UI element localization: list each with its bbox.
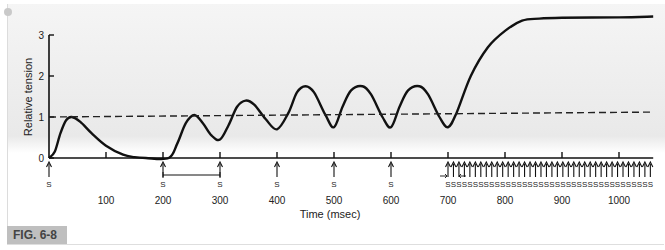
- stimulus-label: S: [217, 180, 222, 189]
- x-ticks: 1002003004005006007008009001000: [98, 152, 631, 206]
- interval-arrow-right: [440, 174, 447, 178]
- x-tick-label: 400: [269, 195, 286, 206]
- x-tick-label: 1000: [608, 195, 631, 206]
- y-ticks: 0123: [38, 30, 54, 164]
- x-tick-label: 200: [155, 195, 172, 206]
- y-tick-label: 3: [38, 30, 44, 41]
- y-tick-label: 1: [38, 112, 44, 123]
- stimulus-marker: S: [331, 162, 336, 189]
- bottom-divider: [7, 244, 664, 245]
- interval-bracket: [163, 172, 220, 178]
- stimulus-marker: S: [274, 162, 279, 189]
- stimulus-marker: S: [388, 162, 393, 189]
- x-tick-label: 800: [497, 195, 514, 206]
- axes: [49, 35, 653, 158]
- x-tick-label: 500: [326, 195, 343, 206]
- x-tick-label: 700: [440, 195, 457, 206]
- y-tick-label: 2: [38, 71, 44, 82]
- x-tick-label: 100: [98, 195, 115, 206]
- stimulus-label: S: [648, 180, 653, 189]
- x-axis-label: Time (msec): [300, 208, 361, 220]
- figure-label: FIG. 6-8: [7, 226, 67, 244]
- tetanic-stimulus-marker: S: [648, 162, 653, 189]
- stimulus-label: S: [388, 180, 393, 189]
- x-tick-label: 900: [554, 195, 571, 206]
- stimulus-label: S: [160, 180, 165, 189]
- tension-curve: [49, 17, 653, 160]
- x-tick-label: 300: [212, 195, 229, 206]
- stimulus-label: S: [274, 180, 279, 189]
- stimulus-label: S: [46, 180, 51, 189]
- stimulus-markers: SSSSSSSSSSSSSSSSSSSSSSSSSSSSSSSSSSSSSSSS…: [46, 162, 653, 189]
- stimulus-label: S: [331, 180, 336, 189]
- series-lines: [49, 17, 653, 160]
- reference-dashed-line: [49, 112, 653, 117]
- x-tick-label: 600: [383, 195, 400, 206]
- y-axis-label: Relative tension: [22, 58, 34, 136]
- stimulus-marker: S: [46, 162, 51, 189]
- y-tick-label: 0: [38, 153, 44, 164]
